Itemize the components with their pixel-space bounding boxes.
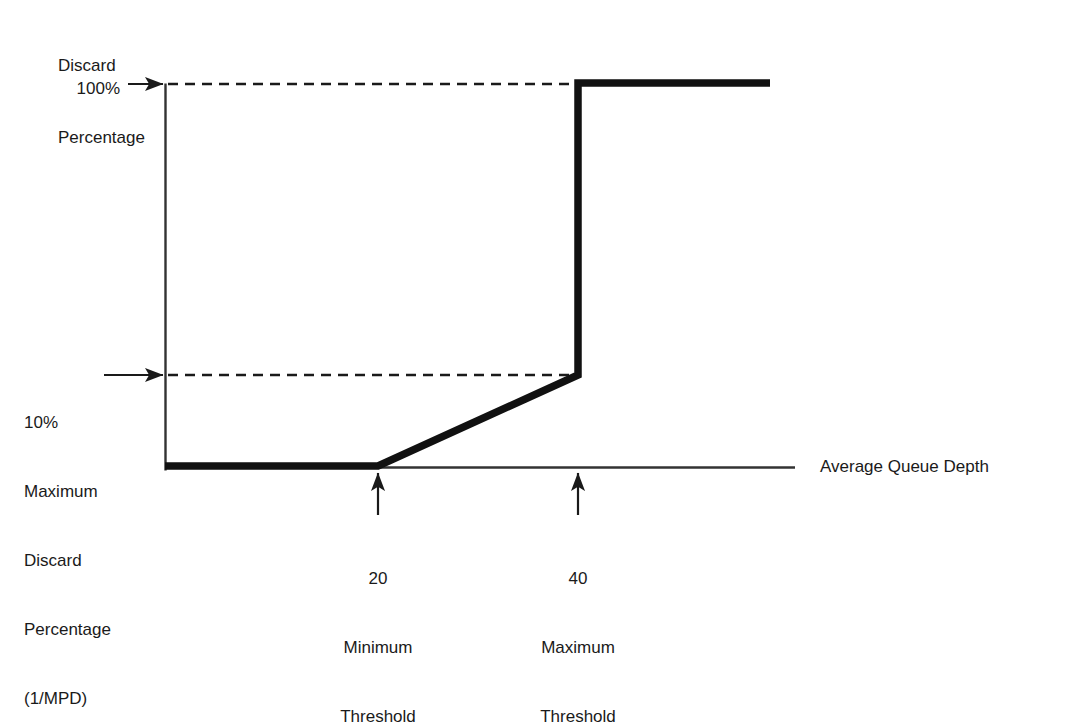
y-tick-label-maximum: Maximum xyxy=(24,480,120,503)
x-annotation-maximum-value: 40 xyxy=(508,567,648,590)
y-tick-label-discard: Discard xyxy=(24,549,120,572)
x-annotation-maximum-threshold: 40 Maximum Threshold xyxy=(508,521,648,726)
y-tick-label-10-percent: 10% xyxy=(24,411,120,434)
x-annotation-maximum-line-1: Maximum xyxy=(508,636,648,659)
x-axis-title: Average Queue Depth xyxy=(820,455,989,478)
y-axis-title: Discard Percentage xyxy=(58,6,145,198)
x-annotation-minimum-line-1: Minimum xyxy=(308,636,448,659)
discard-probability-curve xyxy=(165,83,770,466)
x-annotation-minimum-threshold: 20 Minimum Threshold xyxy=(308,521,448,726)
y-tick-label-10-percent-block: 10% Maximum Discard Percentage (1/MPD) xyxy=(24,365,120,726)
y-axis-title-line-1: Discard xyxy=(58,54,145,78)
x-annotation-maximum-line-2: Threshold xyxy=(508,705,648,726)
x-annotation-minimum-line-2: Threshold xyxy=(308,705,448,726)
y-tick-label-percentage: Percentage xyxy=(24,618,120,641)
y-tick-label-mpd: (1/MPD) xyxy=(24,687,120,710)
y-tick-label-100-percent: 100% xyxy=(24,77,120,100)
y-axis-title-line-2: Percentage xyxy=(58,126,145,150)
x-annotation-minimum-value: 20 xyxy=(308,567,448,590)
